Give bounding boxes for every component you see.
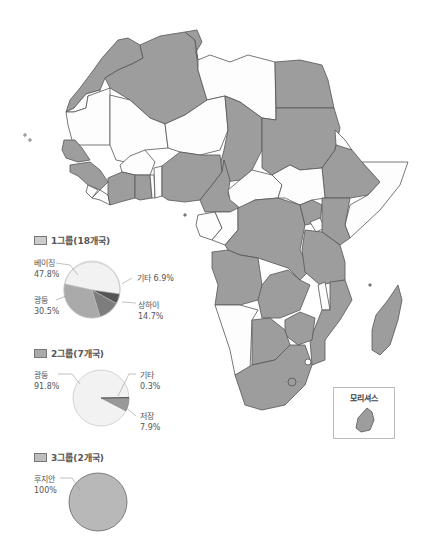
mauritius-inset: 모리셔스 <box>333 387 395 439</box>
legend-swatch-3 <box>34 453 47 462</box>
slice-value: 7.9% <box>140 422 160 433</box>
slice-label: 광둥 <box>34 370 59 381</box>
slice-value: 6.9% <box>154 274 174 283</box>
slice-value: 47.8% <box>34 269 59 280</box>
pie-group-2 <box>73 370 129 426</box>
legend-group-1-label: 1그룹(18개국) <box>51 234 110 247</box>
slice-label: 저장 <box>140 411 160 422</box>
island-cape-verde <box>24 134 26 136</box>
slice-label: 광둥 <box>34 295 59 306</box>
island-sao-tome <box>184 214 186 216</box>
pie1-label-guangdong: 광둥 30.5% <box>34 295 59 317</box>
legend-swatch-2 <box>34 349 47 358</box>
pie2-label-guangdong: 광둥 91.8% <box>34 370 59 392</box>
slice-value: 100% <box>34 485 57 496</box>
country-madagascar <box>372 285 402 355</box>
country-egypt <box>275 60 334 108</box>
slice-value: 14.7% <box>138 311 163 322</box>
legend-group-3-label: 3그룹(2개국) <box>51 451 104 464</box>
pie-group-1 <box>64 261 120 318</box>
slice-value: 91.8% <box>34 381 59 392</box>
pie2-label-other: 기타 0.3% <box>140 370 160 392</box>
legend-group-2-title: 2그룹(7개국) <box>34 347 104 360</box>
slice-label: 기타 <box>140 370 160 381</box>
country-malawi <box>318 282 330 310</box>
slice-label: 기타 <box>137 274 151 283</box>
country-eswatini <box>305 359 311 365</box>
country-lesotho <box>288 378 296 386</box>
island-comoros <box>369 284 371 286</box>
slice-label: 상하이 <box>138 300 163 311</box>
country-ghana <box>135 175 152 200</box>
pie3-label-fujian: 후지안 100% <box>34 474 57 496</box>
country-mozambique <box>310 280 352 365</box>
slice-label: 베이징 <box>34 258 59 269</box>
pie1-label-other: 기타 6.9% <box>137 273 174 284</box>
legend-group-3-title: 3그룹(2개국) <box>34 451 104 464</box>
legend-group-2-label: 2그룹(7개국) <box>51 347 104 360</box>
country-zimbabwe <box>285 312 315 345</box>
legend-group-1-title: 1그룹(18개국) <box>34 234 110 247</box>
slice-value: 30.5% <box>34 306 59 317</box>
pie1-label-beijing: 베이징 47.8% <box>34 258 59 280</box>
legend-swatch-1 <box>34 236 47 245</box>
country-benin <box>154 166 162 198</box>
country-namibia <box>215 305 258 375</box>
pie2-label-zhejiang: 저장 7.9% <box>140 411 160 433</box>
pie-group-3 <box>69 473 127 531</box>
country-cote-divoire <box>108 172 135 205</box>
slice-value: 0.3% <box>140 381 160 392</box>
slice-label: 후지안 <box>34 474 57 485</box>
pie1-label-shanghai: 상하이 14.7% <box>138 300 163 322</box>
africa-map <box>0 0 429 548</box>
island-cape-verde-2 <box>29 139 31 141</box>
mauritius-shape <box>334 388 394 438</box>
